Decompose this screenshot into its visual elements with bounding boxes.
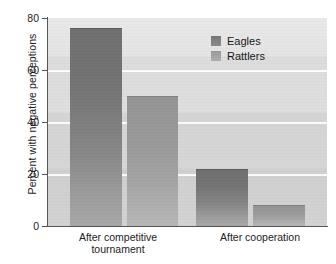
legend-swatch-eagles-icon — [211, 36, 221, 46]
legend-label-eagles: Eagles — [227, 36, 261, 47]
legend-swatch-rattlers-icon — [211, 51, 221, 61]
x-axis-group-label-0-line2: tournament — [48, 243, 188, 255]
y-tick-label-40: 40 — [0, 117, 39, 128]
x-axis-group-label-0-line1: After competitive — [48, 231, 188, 243]
bar-rattlers-after-cooperation — [253, 205, 305, 226]
x-axis-line — [47, 226, 328, 227]
legend-item-rattlers: Rattlers — [211, 49, 265, 63]
x-axis-group-label-0: After competitive tournament — [48, 231, 188, 255]
bar-eagles-after-cooperation — [196, 169, 248, 226]
bar-eagles-after-competitive-tournament — [70, 28, 122, 226]
y-axis-title: Percent with negative perceptions — [26, 9, 38, 219]
legend-item-eagles: Eagles — [211, 34, 265, 48]
plot-area: Eagles Rattlers — [48, 18, 327, 226]
y-tick-label-60: 60 — [0, 65, 39, 76]
x-axis-group-label-1: After cooperation — [193, 231, 327, 243]
y-tick-label-0: 0 — [0, 221, 39, 232]
y-tick-label-20: 20 — [0, 169, 39, 180]
y-tick-label-80: 80 — [0, 13, 39, 24]
bar-chart-figure: Percent with negative perceptions 80 60 … — [0, 0, 336, 264]
bar-rattlers-after-competitive-tournament — [127, 96, 178, 226]
x-axis-group-label-1-line1: After cooperation — [193, 231, 327, 243]
legend: Eagles Rattlers — [211, 34, 265, 64]
legend-label-rattlers: Rattlers — [227, 51, 265, 62]
